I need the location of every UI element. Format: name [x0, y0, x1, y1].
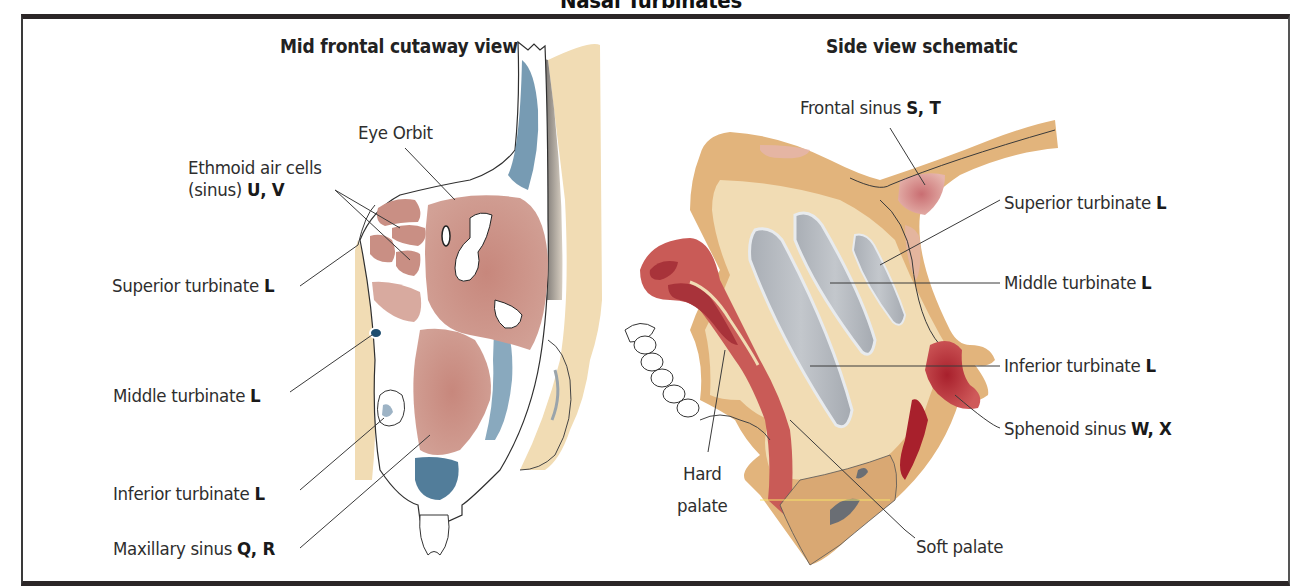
- label-inferior-turbinate-right: Inferior turbinate L: [1004, 355, 1156, 377]
- label-maxillary-sinus: Maxillary sinus Q, R: [113, 538, 275, 560]
- label-soft-palate: Soft palate: [916, 536, 1003, 558]
- label-middle-turbinate-right: Middle turbinate L: [1004, 272, 1151, 294]
- label-middle-turbinate-left: Middle turbinate L: [113, 385, 260, 407]
- teeth: [625, 323, 699, 417]
- tooth: [420, 515, 449, 555]
- label-superior-turbinate-right: Superior turbinate L: [1004, 192, 1166, 214]
- label-ethmoid-air-cells: Ethmoid air cells (sinus) U, V: [188, 157, 322, 201]
- left-panel-title: Mid frontal cutaway view: [280, 35, 518, 57]
- label-hard-palate: Hard palate: [677, 458, 728, 522]
- label-eye-orbit: Eye Orbit: [358, 122, 433, 144]
- label-frontal-sinus: Frontal sinus S, T: [800, 97, 940, 119]
- frontal-cutaway-diagram: [290, 42, 602, 555]
- right-panel-title: Side view schematic: [826, 35, 1018, 57]
- label-inferior-turbinate-left: Inferior turbinate L: [113, 483, 265, 505]
- label-superior-turbinate-left: Superior turbinate L: [112, 275, 274, 297]
- label-sphenoid-sinus: Sphenoid sinus W, X: [1004, 418, 1172, 440]
